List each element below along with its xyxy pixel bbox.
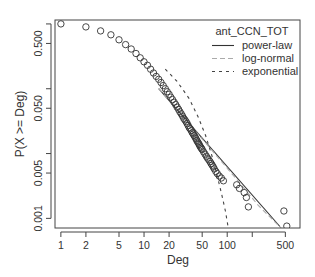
y-tick-label: 0.001 [32, 205, 44, 231]
data-point [108, 32, 114, 38]
y-tick-label: 0.500 [32, 30, 44, 56]
x-axis: 125102050100500 [58, 232, 294, 251]
y-tick-label: 0.050 [32, 95, 44, 121]
data-point [83, 24, 89, 30]
x-tick-label: 100 [218, 239, 236, 251]
data-point [58, 21, 64, 27]
data-point [245, 204, 251, 210]
ccdf-chart: 125102050100500 0.5000.0500.0050.001 Deg… [0, 0, 315, 277]
x-axis-label: Deg [167, 253, 189, 267]
x-tick-label: 20 [163, 239, 175, 251]
legend-label-exponential: exponential [242, 65, 298, 77]
y-axis-label: P(X >= Deg) [13, 91, 27, 158]
data-point [97, 28, 103, 34]
series-exponential [165, 69, 228, 228]
legend-label-power-law: power-law [242, 39, 292, 51]
data-point [137, 55, 143, 61]
y-axis: 0.5000.0500.0050.001 [32, 24, 51, 232]
data-point [122, 41, 128, 47]
legend: ant_CCN_TOT power-lawlog-normalexponenti… [212, 25, 298, 77]
x-tick-label: 1 [58, 239, 64, 251]
data-point [141, 59, 147, 65]
x-tick-label: 50 [196, 239, 208, 251]
data-point [116, 37, 122, 43]
x-tick-label: 500 [277, 239, 295, 251]
x-tick-label: 5 [116, 239, 122, 251]
legend-title: ant_CCN_TOT [215, 25, 288, 37]
legend-label-log-normal: log-normal [242, 52, 294, 64]
y-tick-label: 0.005 [32, 160, 44, 186]
x-tick-label: 2 [83, 239, 89, 251]
data-point [281, 208, 287, 214]
x-tick-label: 10 [138, 239, 150, 251]
